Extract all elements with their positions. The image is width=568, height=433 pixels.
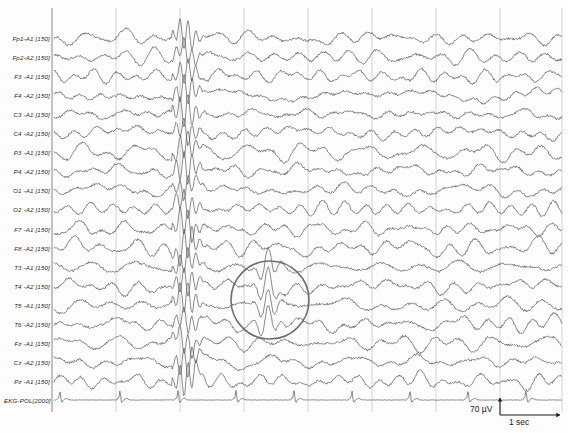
channel-label-cz-a2: Cz -A2 [150] <box>4 359 50 366</box>
channel-label-t6-a2: T6 -A2 [150] <box>4 321 50 328</box>
channel-label-t4-a2: T4 -A2 [150] <box>4 283 50 290</box>
channel-label-f4-a2: F4 -A2 [150] <box>4 92 50 99</box>
channel-label-c4-a2: C4 -A2 [150] <box>4 130 50 137</box>
channel-label-ekg-pol: EKG-POL[2000] <box>4 397 50 404</box>
channel-label-c3-a1: C3 -A1 [150] <box>4 111 50 118</box>
channel-label-t3-a1: T3 -A1 [150] <box>4 264 50 271</box>
channel-label-fz-a1: Fz -A1 [150] <box>4 340 50 347</box>
eeg-recording-viewer: Fp1-A1 [150]Fp2-A2 [150]F3 -A1 [150]F4 -… <box>0 0 568 433</box>
channel-label-pz-a1: Pz -A1 [150] <box>4 378 50 385</box>
channel-label-f8-a2: F8 -A2 [150] <box>4 245 50 252</box>
channel-label-p3-a1: P3 -A1 [150] <box>4 149 50 156</box>
channel-label-f7-a1: F7 -A1 [150] <box>4 226 50 233</box>
calibration-time-arrowhead <box>556 413 560 418</box>
channel-label-fp2-a2: Fp2-A2 [150] <box>4 54 50 61</box>
channel-label-f3-a1: F3 -A1 [150] <box>4 73 50 80</box>
channel-label-o2-a2: O2 -A2 [150] <box>4 206 50 213</box>
channel-label-p4-a2: P4 -A2 [150] <box>4 168 50 175</box>
calibration-time-label: 1 sec <box>509 417 529 427</box>
channel-label-fp1-a1: Fp1-A1 [150] <box>4 35 50 42</box>
calibration-voltage-label: 70 µV <box>470 404 492 414</box>
eeg-trace-canvas <box>0 0 568 433</box>
channel-label-t5-a1: T5 -A1 [150] <box>4 302 50 309</box>
channel-label-o1-a1: O1 -A1 [150] <box>4 187 50 194</box>
